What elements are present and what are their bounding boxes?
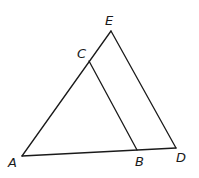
segment-AD bbox=[22, 148, 176, 156]
label-D: D bbox=[176, 150, 186, 165]
label-A: A bbox=[7, 155, 17, 170]
segment-AE bbox=[22, 31, 111, 156]
segment-ED bbox=[111, 31, 176, 148]
triangle-diagram: E C A B D bbox=[0, 0, 199, 178]
label-B: B bbox=[135, 154, 144, 169]
label-E: E bbox=[105, 13, 114, 28]
segment-CB bbox=[89, 61, 137, 150]
label-C: C bbox=[77, 46, 87, 61]
